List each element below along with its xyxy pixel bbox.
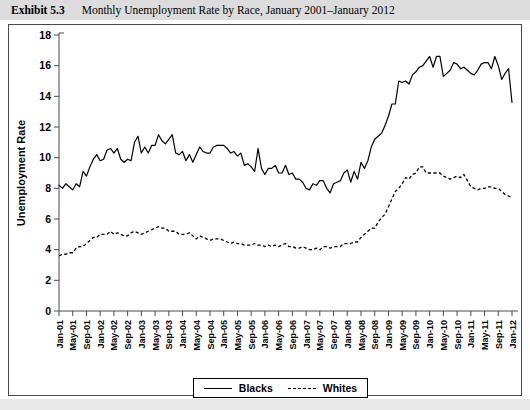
y-tick-label: 6 (45, 213, 51, 225)
x-tick-label: Sep-11 (494, 320, 504, 349)
x-tick-label: Jan-07 (302, 320, 312, 349)
y-tick-label: 12 (39, 121, 51, 133)
x-tick-label: Jan-02 (96, 320, 106, 349)
x-tick-label: May-11 (480, 320, 490, 350)
y-tick-label: 0 (45, 305, 51, 317)
x-tick-label: Jan-12 (508, 320, 518, 349)
chart-page: Exhibit 5.3 Monthly Unemployment Rate by… (0, 0, 530, 410)
x-tick-label: May-05 (233, 320, 243, 351)
x-tick-label: Sep-01 (82, 320, 92, 350)
x-tick-label: Jan-10 (425, 320, 435, 349)
x-tick-label: Jan-06 (260, 320, 270, 349)
exhibit-title: Monthly Unemployment Rate by Race, Janua… (82, 4, 395, 16)
x-tick-label: Jan-03 (137, 320, 147, 349)
unemployment-line-chart: 024681012141618Unemployment RateJan-01Ma… (9, 25, 521, 395)
legend-item-blacks: Blacks (204, 382, 273, 394)
x-tick-label: Jan-01 (55, 320, 65, 349)
x-tick-label: May-10 (439, 320, 449, 351)
y-tick-label: 4 (45, 243, 51, 255)
x-tick-label: Sep-08 (370, 320, 380, 350)
series-line-blacks (59, 56, 512, 192)
x-tick-label: Jan-05 (219, 320, 229, 349)
x-tick-label: May-08 (357, 320, 367, 351)
y-tick-label: 18 (39, 29, 51, 41)
x-tick-label: Sep-07 (329, 320, 339, 350)
x-tick-label: Sep-04 (206, 320, 216, 350)
legend-swatch-solid-icon (204, 388, 232, 389)
x-tick-label: May-02 (109, 320, 119, 351)
y-tick-label: 14 (39, 90, 51, 102)
chart-frame: 024681012141618Unemployment RateJan-01Ma… (8, 24, 522, 396)
legend-label-whites: Whites (323, 382, 357, 394)
x-tick-label: Jan-11 (466, 320, 476, 348)
x-tick-label: May-09 (398, 320, 408, 351)
exhibit-number: Exhibit 5.3 (11, 4, 65, 16)
x-tick-label: Jan-08 (343, 320, 353, 349)
legend-label-blacks: Blacks (239, 382, 273, 394)
x-tick-label: May-06 (274, 320, 284, 351)
x-tick-label: Sep-03 (164, 320, 174, 350)
x-tick-label: Sep-09 (411, 320, 421, 350)
x-tick-label: Sep-05 (247, 320, 257, 350)
x-tick-label: Sep-10 (453, 320, 463, 350)
y-tick-label: 10 (39, 151, 51, 163)
page-bottom-edge (0, 399, 530, 410)
legend-swatch-dashed-icon (288, 388, 316, 389)
y-tick-label: 2 (45, 274, 51, 286)
x-tick-label: Sep-02 (123, 320, 133, 350)
chart-legend: Blacks Whites (193, 378, 368, 398)
x-tick-label: May-07 (315, 320, 325, 351)
series-line-whites (59, 167, 512, 256)
y-tick-label: 8 (45, 182, 51, 194)
y-tick-label: 16 (39, 59, 51, 71)
x-tick-label: Jan-09 (384, 320, 394, 349)
y-axis-title: Unemployment Rate (15, 120, 27, 226)
legend-item-whites: Whites (288, 382, 357, 394)
x-tick-label: May-04 (192, 320, 202, 351)
exhibit-caption-band: Exhibit 5.3 Monthly Unemployment Rate by… (0, 0, 530, 20)
x-tick-label: May-01 (68, 320, 78, 351)
x-tick-label: Jan-04 (178, 320, 188, 349)
x-tick-label: May-03 (151, 320, 161, 351)
x-tick-label: Sep-06 (288, 320, 298, 350)
